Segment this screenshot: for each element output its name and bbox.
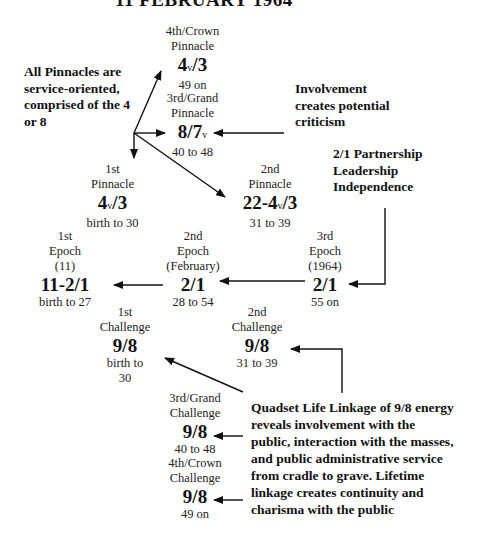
first-challenge-label: 1st [90, 305, 160, 320]
crown-challenge-range: 49 on [160, 507, 230, 522]
grand-pinnacle: 3rd/Grand Pinnacle 8/7v 40 to 48 [150, 91, 235, 160]
second-pinnacle-label-2: Pinnacle [225, 177, 315, 192]
note-quadset: Quadset Life Linkage of 9/8 energy revea… [251, 399, 454, 518]
second-epoch: 2nd Epoch (February) 2/1 28 to 54 [153, 229, 233, 310]
crown-challenge: 4th/Crown Challenge 9/8 49 on [160, 456, 230, 522]
note-pinnacles: All Pinnacles are service-oriented, comp… [24, 64, 130, 130]
second-pinnacle: 2nd Pinnacle 22-4v/3 31 to 39 [225, 162, 315, 231]
crown-pinnacle-label: 4th/Crown [150, 24, 235, 39]
first-epoch-label-3: (11) [25, 259, 105, 274]
second-epoch-range: 28 to 54 [153, 295, 233, 310]
grand-pinnacle-label-2: Pinnacle [150, 106, 235, 121]
crown-pinnacle-label-2: Pinnacle [150, 39, 235, 54]
first-epoch-label-2: Epoch [25, 244, 105, 259]
first-epoch-value: 11-2/1 [25, 274, 105, 295]
first-epoch-label: 1st [25, 229, 105, 244]
second-epoch-label-3: (February) [153, 259, 233, 274]
second-challenge-label: 2nd [222, 305, 292, 320]
grand-challenge: 3rd/Grand Challenge 9/8 40 to 48 [160, 391, 230, 457]
second-challenge-label-2: Challenge [222, 320, 292, 335]
second-challenge-range: 31 to 39 [222, 356, 292, 371]
grand-challenge-range: 40 to 48 [160, 442, 230, 457]
second-pinnacle-value: 22-4v/3 [225, 192, 315, 216]
third-epoch-label: 3rd [290, 229, 360, 244]
third-epoch-value: 2/1 [290, 274, 360, 295]
crown-pinnacle: 4th/Crown Pinnacle 4v/3 49 on [150, 24, 235, 93]
first-pinnacle-label: 1st [70, 162, 155, 177]
first-pinnacle-label-2: Pinnacle [70, 177, 155, 192]
grand-challenge-value: 9/8 [160, 421, 230, 442]
first-pinnacle-value: 4v/3 [70, 192, 155, 216]
first-challenge-label-2: Challenge [90, 320, 160, 335]
note-partnership: 2/1 Partnership Leadership Independence [333, 146, 423, 196]
second-pinnacle-label: 2nd [225, 162, 315, 177]
first-challenge-range: birth to [90, 356, 160, 371]
grand-challenge-label: 3rd/Grand [160, 391, 230, 406]
second-epoch-label-2: Epoch [153, 244, 233, 259]
third-epoch-label-3: (1964) [290, 259, 360, 274]
arrow-to-second-challenge [291, 349, 342, 393]
first-challenge-value: 9/8 [90, 335, 160, 356]
second-challenge-value: 9/8 [222, 335, 292, 356]
third-epoch-label-2: Epoch [290, 244, 360, 259]
crown-challenge-value: 9/8 [160, 486, 230, 507]
grand-challenge-label-2: Challenge [160, 406, 230, 421]
second-challenge: 2nd Challenge 9/8 31 to 39 [222, 305, 292, 371]
third-epoch: 3rd Epoch (1964) 2/1 55 on [290, 229, 360, 310]
grand-pinnacle-range: 40 to 48 [150, 145, 235, 160]
grand-pinnacle-label: 3rd/Grand [150, 91, 235, 106]
first-challenge-range-2: 30 [90, 371, 160, 386]
crown-pinnacle-value: 4v/3 [150, 54, 235, 78]
crown-challenge-label-2: Challenge [160, 471, 230, 486]
second-epoch-value: 2/1 [153, 274, 233, 295]
note-involvement: Involvement creates potential criticism [295, 81, 390, 131]
first-challenge: 1st Challenge 9/8 birth to 30 [90, 305, 160, 386]
second-epoch-label: 2nd [153, 229, 233, 244]
grand-pinnacle-value: 8/7v [150, 121, 235, 145]
third-epoch-range: 55 on [290, 295, 360, 310]
first-epoch: 1st Epoch (11) 11-2/1 birth to 27 [25, 229, 105, 310]
crown-challenge-label: 4th/Crown [160, 456, 230, 471]
first-pinnacle: 1st Pinnacle 4v/3 birth to 30 [70, 162, 155, 231]
